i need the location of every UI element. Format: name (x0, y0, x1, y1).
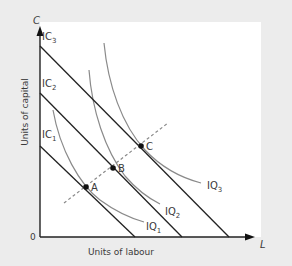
x-axis-symbol: L (260, 239, 266, 250)
point-b-marker (110, 165, 116, 171)
expansion-path-diagram: C L 0 Units of labour Units of capital I… (0, 0, 292, 266)
y-axis-title: Units of capital (20, 78, 30, 146)
point-a-label: A (91, 182, 98, 193)
origin-label: 0 (30, 232, 36, 242)
x-axis-title: Units of labour (88, 247, 154, 257)
point-c-marker (138, 143, 144, 149)
point-c-label: C (146, 141, 153, 152)
y-axis-symbol: C (33, 15, 40, 26)
point-a-marker (83, 184, 89, 190)
point-b-label: B (118, 163, 125, 174)
